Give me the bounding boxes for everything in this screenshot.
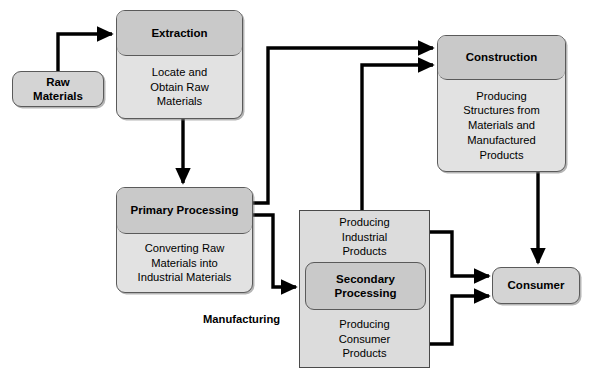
node-raw-materials[interactable]: Raw Materials xyxy=(12,71,104,107)
edge-raw-to-extraction xyxy=(58,34,112,72)
node-secondary-processing-header: Secondary Processing xyxy=(305,262,426,310)
node-raw-materials-label: Raw Materials xyxy=(33,75,83,103)
node-construction-header: Construction xyxy=(438,36,565,80)
edge-primary-to-construction xyxy=(252,48,433,203)
node-consumer[interactable]: Consumer xyxy=(492,267,580,304)
node-extraction-header: Extraction xyxy=(117,11,242,56)
node-secondary-processing[interactable]: Producing Industrial Products Producing … xyxy=(299,210,430,368)
node-construction[interactable]: Construction Producing Structures from M… xyxy=(437,35,566,172)
node-secondary-processing-bottom-band: Producing Consumer Products xyxy=(300,311,429,367)
edge-secondary-consumer-to-consumer xyxy=(430,296,489,344)
node-primary-processing-body: Converting Raw Materials into Industrial… xyxy=(117,234,252,292)
node-secondary-processing-top-band: Producing Industrial Products xyxy=(300,211,429,263)
edge-secondary-industrial-to-consumer xyxy=(430,232,489,276)
node-primary-processing[interactable]: Primary Processing Converting Raw Materi… xyxy=(116,187,253,293)
edge-secondary-to-construction xyxy=(362,65,433,210)
node-extraction-body: Locate and Obtain Raw Materials xyxy=(117,56,242,118)
node-extraction[interactable]: Extraction Locate and Obtain Raw Materia… xyxy=(116,10,243,119)
edge-primary-to-secondary xyxy=(252,215,296,287)
label-manufacturing: Manufacturing xyxy=(203,313,280,325)
flowchart-canvas: Raw Materials Extraction Locate and Obta… xyxy=(0,0,590,369)
node-construction-body: Producing Structures from Materials and … xyxy=(438,80,565,171)
node-consumer-label: Consumer xyxy=(508,278,565,292)
node-primary-processing-header: Primary Processing xyxy=(117,188,252,234)
